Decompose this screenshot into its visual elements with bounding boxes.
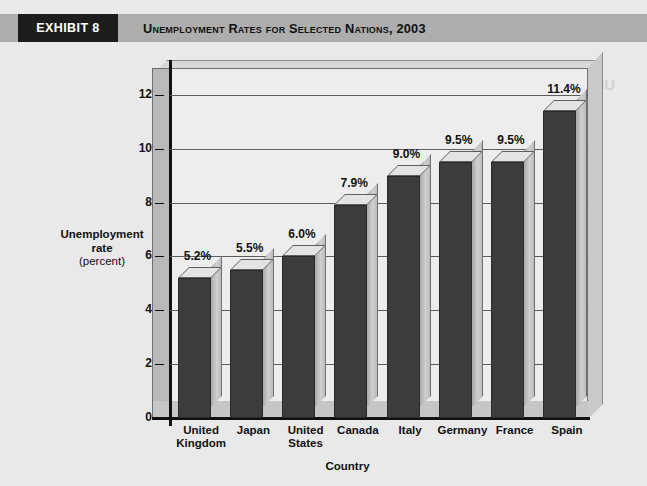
bar-side-face — [211, 256, 222, 407]
plot-3d-right-bevel — [588, 52, 603, 419]
y-tick-label-8: 8 — [118, 195, 152, 209]
bar-side-face — [472, 140, 483, 407]
bar-front-face — [439, 162, 472, 418]
exhibit-title: Unemployment Rates for Selected Nations,… — [143, 14, 426, 42]
bar-front-face — [282, 256, 315, 418]
x-category-label-7: Spain — [523, 424, 611, 437]
bar-side-face — [420, 154, 431, 407]
bar-united-states[interactable]: 6.0% — [282, 256, 315, 418]
bar-front-face — [491, 162, 524, 418]
y-tick-label-12: 12 — [118, 87, 152, 101]
y-tick-mark-0 — [155, 418, 164, 419]
y-tick-mark-6 — [155, 256, 164, 257]
chart-figure: 024681012 5.2%5.5%6.0%7.9%9.0%9.5%9.5%11… — [0, 46, 647, 486]
x-axis-title: Country — [0, 460, 647, 472]
bar-side-face — [263, 248, 274, 407]
x-axis-title-text: Country — [325, 460, 369, 472]
y-tick-label-2: 2 — [118, 356, 152, 370]
bar-value-label: 5.5% — [236, 241, 263, 255]
y-axis-title: Unemployment rate (percent) — [52, 228, 152, 269]
bar-value-label: 9.0% — [393, 147, 420, 161]
y-tick-mark-10 — [155, 149, 164, 150]
bar-side-face — [524, 140, 535, 407]
bar-value-label: 7.9% — [340, 176, 367, 190]
bar-italy[interactable]: 9.0% — [387, 176, 420, 418]
bar-side-face — [315, 234, 326, 407]
y-tick-label-4: 4 — [118, 302, 152, 316]
y-axis-title-line1: Unemployment — [52, 228, 152, 242]
bar-germany[interactable]: 9.5% — [439, 162, 472, 418]
bar-front-face — [543, 111, 576, 418]
bar-side-face — [576, 89, 587, 407]
bar-united-kingdom[interactable]: 5.2% — [178, 278, 211, 418]
bar-front-face — [387, 176, 420, 418]
y-axis-title-line2: rate — [52, 242, 152, 256]
bar-value-label: 6.0% — [288, 227, 315, 241]
y-axis-line — [169, 60, 172, 426]
bar-value-label: 9.5% — [497, 133, 524, 147]
y-tick-mark-4 — [155, 310, 164, 311]
bar-canada[interactable]: 7.9% — [334, 205, 367, 418]
plot-area: 024681012 5.2%5.5%6.0%7.9%9.0%9.5%9.5%11… — [170, 68, 588, 418]
bar-japan[interactable]: 5.5% — [230, 270, 263, 418]
bar-spain[interactable]: 11.4% — [543, 111, 576, 418]
bar-value-label: 5.2% — [184, 249, 211, 263]
bar-front-face — [230, 270, 263, 418]
x-axis-line — [152, 417, 590, 420]
y-axis-title-line3: (percent) — [52, 255, 152, 269]
bar-france[interactable]: 9.5% — [491, 162, 524, 418]
bar-value-label: 11.4% — [547, 82, 580, 96]
y-tick-mark-2 — [155, 364, 164, 365]
y-tick-mark-12 — [155, 95, 164, 96]
y-tick-label-0: 0 — [118, 410, 152, 424]
bar-front-face — [334, 205, 367, 418]
exhibit-badge: EXHIBIT 8 — [18, 14, 118, 42]
exhibit-header-band: EXHIBIT 8 Unemployment Rates for Selecte… — [0, 14, 647, 42]
bar-value-label: 9.5% — [445, 133, 472, 147]
y-tick-mark-8 — [155, 203, 164, 204]
bar-front-face — [178, 278, 211, 418]
y-tick-label-10: 10 — [118, 141, 152, 155]
gridline-12 — [170, 95, 588, 96]
bar-side-face — [367, 183, 378, 407]
